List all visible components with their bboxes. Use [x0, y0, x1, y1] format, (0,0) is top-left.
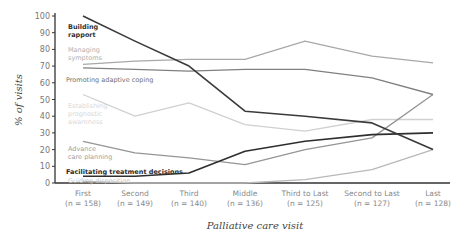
y-tick-label: 20 [40, 146, 50, 155]
x-tick-count: (n = 136) [227, 199, 263, 208]
series-label: Establishing [68, 102, 107, 110]
y-tick-label: 30 [40, 129, 50, 138]
x-tick-count: (n = 158) [65, 199, 101, 208]
y-tick-label: 80 [40, 45, 50, 54]
y-tick-label: 100 [35, 12, 50, 21]
x-tick-count: (n = 125) [287, 199, 323, 208]
series-label: Guiding disposition [68, 177, 130, 185]
x-tick-label: Second [121, 189, 149, 198]
y-tick-label: 60 [40, 79, 50, 88]
x-tick-count: (n = 127) [354, 199, 390, 208]
x-tick-count: (n = 140) [171, 199, 207, 208]
x-tick-count: (n = 128) [415, 199, 451, 208]
series-lines [83, 16, 433, 183]
series-line-guiding-disposition [83, 150, 433, 183]
series-label: Building [68, 23, 99, 31]
x-tick-label: Third to Last [280, 189, 328, 198]
x-tick-count: (n = 149) [117, 199, 153, 208]
x-axis: First(n = 158)Second(n = 149)Third(n = 1… [55, 183, 451, 208]
y-tick-label: 90 [40, 29, 50, 38]
series-label: Managing [68, 46, 100, 54]
y-axis-title: % of visits [13, 74, 24, 126]
series-label: prognostic [68, 110, 103, 118]
series-label: symptoms [68, 54, 103, 62]
y-axis: 0102030405060708090100 [35, 12, 55, 188]
series-labels: BuildingrapportManagingsymptomsPromoting… [66, 23, 183, 185]
y-tick-label: 0 [45, 179, 50, 188]
y-tick-label: 40 [40, 112, 50, 121]
y-tick-label: 70 [40, 62, 50, 71]
x-tick-label: Third [178, 189, 198, 198]
x-tick-label: Middle [233, 189, 258, 198]
y-tick-label: 10 [40, 162, 50, 171]
x-axis-title: Palliative care visit [206, 220, 304, 231]
series-label: care planning [68, 153, 112, 161]
series-label: rapport [68, 31, 96, 39]
x-tick-label: Second to Last [344, 189, 400, 198]
y-tick-label: 50 [40, 96, 50, 105]
x-tick-label: First [75, 189, 91, 198]
series-label: Facilitating treatment decisions [66, 168, 183, 176]
line-chart: 0102030405060708090100 First(n = 158)Sec… [0, 0, 457, 236]
series-label: Advance [68, 145, 96, 153]
x-tick-label: Last [425, 189, 441, 198]
series-line-advance-care-planning [83, 95, 433, 165]
series-label: Promoting adaptive coping [66, 76, 154, 84]
series-line-managing-symptoms [83, 41, 433, 64]
series-label: awareness [68, 118, 103, 126]
